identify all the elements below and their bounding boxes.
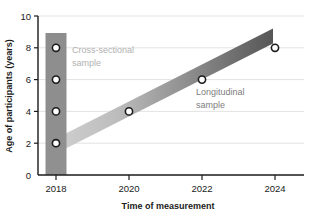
y-axis-title: Age of participants (years) (4, 39, 14, 153)
longitudinal-label-line2: sample (196, 100, 225, 110)
x-axis-tick-labels: 2018 2020 2022 2024 (45, 183, 285, 194)
cross-sectional-label-line1: Cross-sectional (72, 45, 134, 55)
longitudinal-label-line1: Longitudinal (196, 87, 245, 97)
y-tick-label-4: 4 (26, 106, 31, 117)
y-tick-label-0: 0 (26, 170, 31, 181)
x-tick-label-2018: 2018 (45, 183, 66, 194)
data-point-2020-4 (125, 108, 132, 115)
x-axis-title: Time of measurement (122, 201, 215, 211)
data-point-2018-4 (52, 108, 59, 115)
y-tick-label-2: 2 (26, 138, 31, 149)
data-point-2018-2 (52, 140, 59, 147)
x-axis-ticks (56, 175, 275, 180)
y-tick-label-6: 6 (26, 74, 31, 85)
y-tick-label-10: 10 (20, 11, 31, 22)
cross-sectional-label-line2: sample (72, 58, 101, 68)
chart-svg: 10 8 6 4 2 0 2018 2020 2022 2024 Time of… (0, 0, 309, 217)
y-tick-label-8: 8 (26, 42, 31, 53)
data-point-2022-6 (198, 76, 205, 83)
data-point-2018-8 (52, 44, 59, 51)
x-tick-label-2020: 2020 (118, 183, 139, 194)
data-point-2018-6 (52, 76, 59, 83)
x-tick-label-2024: 2024 (264, 183, 285, 194)
data-point-2024-8 (271, 44, 278, 51)
chart-container: 10 8 6 4 2 0 2018 2020 2022 2024 Time of… (0, 0, 309, 217)
cross-sectional-band (46, 33, 67, 175)
x-tick-label-2022: 2022 (191, 183, 212, 194)
y-axis-tick-labels: 10 8 6 4 2 0 (20, 11, 31, 181)
